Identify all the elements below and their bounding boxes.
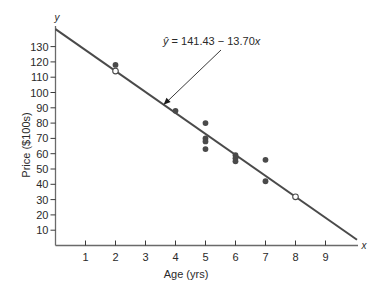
y-tick-label: 80 — [36, 117, 48, 129]
x-axis-title: Age (yrs) — [164, 268, 209, 280]
x-axis-var-label: x — [361, 240, 368, 251]
y-tick-label: 50 — [36, 163, 48, 175]
y-tick-label: 20 — [36, 209, 48, 221]
y-tick-label: 70 — [36, 132, 48, 144]
x-tick-label: 5 — [202, 251, 208, 263]
y-tick-label: 100 — [30, 87, 48, 99]
fitted-point-marker — [113, 68, 119, 74]
fitted-line — [56, 29, 358, 240]
y-axis-ticks: 102030405060708090100110120130 — [30, 41, 55, 237]
y-tick-label: 30 — [36, 194, 48, 206]
x-tick-label: 1 — [82, 251, 88, 263]
annotation-arrow-shaft — [168, 50, 222, 101]
observed-point-marker — [203, 146, 209, 152]
x-tick-label: 4 — [172, 251, 178, 263]
observed-point-marker — [233, 158, 239, 164]
x-tick-label: 7 — [262, 251, 268, 263]
x-tick-label: 2 — [112, 251, 118, 263]
regression-scatter-chart: 102030405060708090100110120130 123456789… — [0, 0, 382, 295]
observed-point-marker — [173, 108, 179, 114]
x-tick-label: 8 — [292, 251, 298, 263]
y-tick-label: 110 — [31, 71, 49, 83]
y-axis-var-label: y — [54, 12, 61, 23]
y-tick-label: 120 — [30, 56, 48, 68]
x-tick-label: 9 — [322, 251, 328, 263]
regression-line — [56, 29, 358, 240]
equation-label: ŷ = 141.43 − 13.70x — [162, 35, 261, 47]
x-tick-label: 3 — [142, 251, 148, 263]
observed-point-marker — [263, 157, 269, 163]
y-axis-title: Price ($100s) — [20, 112, 32, 177]
observed-point-marker — [203, 120, 209, 126]
equation-annotation: ŷ = 141.43 − 13.70x — [162, 35, 261, 105]
y-tick-label: 60 — [36, 148, 48, 160]
observed-point-marker — [203, 139, 209, 145]
y-tick-label: 90 — [36, 102, 48, 114]
x-tick-label: 6 — [232, 251, 238, 263]
fitted-point-marker — [293, 194, 299, 200]
y-tick-label: 10 — [36, 224, 48, 236]
observed-point-marker — [113, 62, 119, 68]
observed-point-marker — [263, 178, 269, 184]
y-tick-label: 130 — [30, 41, 48, 53]
x-axis-ticks: 123456789 — [82, 241, 328, 263]
y-tick-label: 40 — [36, 178, 48, 190]
